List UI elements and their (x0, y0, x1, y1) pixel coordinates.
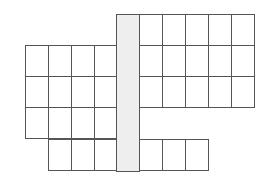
left-block-cell (71, 107, 95, 139)
left-block-cell (94, 45, 118, 77)
left-bottom-row-cell (71, 139, 95, 171)
right-block-cell (162, 14, 186, 46)
shaded-spine-column (116, 14, 140, 172)
right-block-cell (231, 14, 255, 46)
left-block-cell (25, 76, 49, 108)
left-block-cell (48, 107, 72, 139)
right-block-cell (162, 76, 186, 108)
right-block-cell (185, 45, 209, 77)
left-block-cell (25, 107, 49, 139)
right-bottom-row-cell (162, 139, 186, 171)
right-block-cell (162, 45, 186, 77)
right-block-cell (185, 76, 209, 108)
right-block-cell (139, 76, 163, 108)
right-bottom-row-cell (185, 139, 209, 171)
left-block-cell (94, 107, 118, 139)
left-block-cell (48, 76, 72, 108)
right-block-cell (208, 14, 232, 46)
left-block-cell (71, 45, 95, 77)
right-bottom-row-cell (139, 139, 163, 171)
left-block-cell (25, 45, 49, 77)
right-block-cell (185, 14, 209, 46)
left-block-cell (48, 45, 72, 77)
right-block-cell (231, 76, 255, 108)
right-block-cell (139, 45, 163, 77)
right-block-cell (139, 14, 163, 46)
left-bottom-row-cell (94, 139, 118, 171)
right-block-cell (208, 45, 232, 77)
right-block-cell (208, 76, 232, 108)
left-block-cell (94, 76, 118, 108)
left-bottom-row-cell (48, 139, 72, 171)
left-block-cell (71, 76, 95, 108)
right-block-cell (231, 45, 255, 77)
